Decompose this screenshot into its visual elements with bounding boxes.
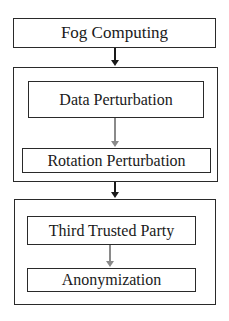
third-trusted-party-node: Third Trusted Party — [27, 216, 196, 245]
rotation-perturbation-node: Rotation Perturbation — [22, 148, 211, 173]
fog-computing-node: Fog Computing — [13, 18, 216, 48]
arrow-head-icon — [111, 60, 119, 66]
rotation-perturbation-label: Rotation Perturbation — [47, 152, 185, 170]
third-trusted-party-label: Third Trusted Party — [49, 222, 174, 240]
arrow-head-icon — [111, 141, 119, 147]
arrow-head-icon — [111, 192, 119, 198]
arrow-head-icon — [106, 261, 114, 267]
data-perturbation-label: Data Perturbation — [59, 91, 172, 109]
fog-computing-label: Fog Computing — [61, 23, 168, 43]
arrow-shaft — [114, 118, 116, 142]
anonymization-node: Anonymization — [27, 268, 196, 292]
anonymization-label: Anonymization — [62, 271, 162, 289]
data-perturbation-node: Data Perturbation — [28, 81, 204, 118]
arrow-shaft — [109, 245, 111, 262]
